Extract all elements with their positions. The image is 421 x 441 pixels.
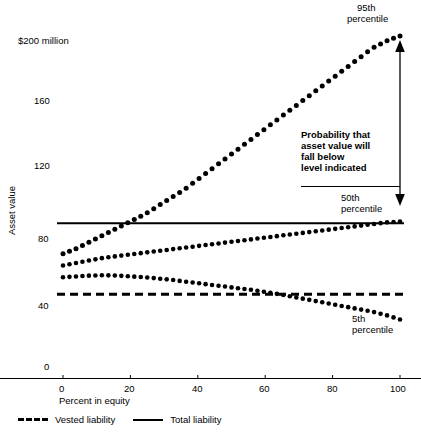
chart-legend: Vested liability Total liability (18, 414, 221, 425)
x-tick-80: 80 (327, 383, 338, 395)
x-tick-60: 60 (259, 383, 270, 395)
y-tick-200: $200 million (18, 35, 69, 47)
vested-liability-label: Vested liability (55, 414, 115, 425)
vested-liability-swatch (18, 418, 48, 421)
total-liability-swatch (133, 419, 163, 421)
x-axis-title: Percent in equity (59, 395, 130, 407)
chart-canvas (0, 0, 421, 441)
probability-note-line4: level indicated (301, 162, 366, 174)
y-tick-80: 80 (38, 233, 49, 245)
y-tick-40: 40 (38, 300, 49, 312)
probability-bracket (301, 40, 405, 206)
probability-note-line3: fall below (301, 151, 344, 163)
y-tick-0: 0 (44, 361, 49, 373)
label-50th-line2: percentile (341, 203, 382, 215)
probability-note-line2: asset value will (301, 140, 370, 152)
series-50th-percentile (61, 219, 403, 267)
label-95th-line2: percentile (347, 13, 388, 25)
arrow-head-down-icon (395, 194, 405, 206)
total-liability-label: Total liability (170, 414, 221, 425)
x-tick-40: 40 (192, 383, 203, 395)
x-axis-ticks (63, 375, 400, 379)
y-tick-160: 160 (34, 95, 50, 107)
label-50th-line1: 50th (341, 192, 360, 204)
y-axis-title: Asset value (6, 181, 17, 241)
label-5th-line2: percentile (352, 324, 393, 336)
x-tick-0: 0 (59, 383, 64, 395)
x-tick-100: 100 (390, 383, 406, 395)
label-5th-line1: 5th (352, 313, 365, 325)
y-tick-120: 120 (34, 160, 50, 172)
x-tick-20: 20 (124, 383, 135, 395)
label-95th-line1: 95th (357, 2, 376, 14)
asset-value-percentile-chart: Asset value $200 million 160 120 80 40 0… (0, 0, 421, 441)
arrow-head-up-icon (395, 40, 405, 52)
probability-note-line1: Probability that (301, 129, 370, 141)
